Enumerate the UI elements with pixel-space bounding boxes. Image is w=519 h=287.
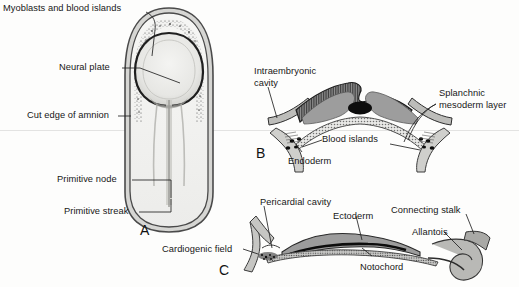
label-intraembryonic-cavity-line1: Intraembryonic — [254, 66, 316, 78]
label-splanchnic-mesoderm-layer-line1: Splanchnic — [439, 88, 485, 100]
embryology-figure: Myoblasts and blood islands Neural plate… — [0, 0, 519, 287]
panel-letter-c: C — [219, 262, 229, 278]
label-myoblasts-and-blood-islands: Myoblasts and blood islands — [3, 3, 121, 15]
panel-letter-b: B — [256, 145, 265, 161]
label-ectoderm: Ectoderm — [333, 211, 373, 223]
label-splanchnic-mesoderm-layer-line2: mesoderm layer — [439, 100, 506, 112]
label-intraembryonic-cavity-line2: cavity — [254, 78, 278, 90]
label-blood-islands: Blood islands — [322, 134, 378, 146]
label-cut-edge-of-amnion: Cut edge of amnion — [27, 110, 109, 122]
label-primitive-streak: Primitive streak — [64, 206, 128, 218]
figure-artwork — [0, 0, 519, 287]
label-cardiogenic-field: Cardiogenic field — [162, 244, 232, 256]
label-primitive-node: Primitive node — [57, 174, 117, 186]
panel-letter-a: A — [140, 222, 149, 238]
label-pericardial-cavity: Pericardial cavity — [260, 197, 331, 209]
label-connecting-stalk: Connecting stalk — [391, 205, 461, 217]
label-notochord: Notochord — [360, 262, 403, 274]
panel-a-artwork — [125, 8, 213, 232]
label-endoderm: Endoderm — [288, 156, 331, 168]
label-neural-plate: Neural plate — [59, 62, 110, 74]
label-allantois: Allantois — [412, 227, 448, 239]
